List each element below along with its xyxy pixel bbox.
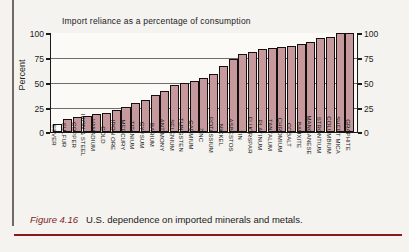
bar [287,46,296,132]
x-axis-tick-label-text: STRONTIUM [316,117,322,154]
x-axis-tick-label-text: ASBESTOS [228,118,234,151]
bar [219,66,228,132]
x-axis-tick-label: CADMIUM [189,134,199,204]
x-axis-tick-label-text: TITANIUM [129,121,135,150]
y-tick-label-25: 25 [22,104,44,114]
x-axis-tick-label-text: SHEET MICA [335,116,341,154]
x-axis-tick-label: GRAPHITE [346,134,356,204]
x-axis-tick-label-text: TUNGSTEN [178,118,184,152]
x-axis-tick-label-text: PLATINUM [257,120,263,151]
figure-caption-text: U.S. dependence on imported minerals and… [86,214,303,225]
page-bottom-rule [14,234,402,236]
x-axis-tick-label: ASBESTOS [229,134,239,204]
y-tick-label-50: 50 [22,79,44,89]
x-axis-tick-label-text: CHROMIUM [277,118,283,152]
x-axis-tick-label-text: TIN [237,130,243,140]
y-right-tick-label-0: 0 [364,128,369,138]
chart-title: Import reliance as a percentage of consu… [62,16,251,26]
x-axis-tick-label-text: MERCURY [120,120,126,151]
x-axis-tick-label-text: COPPER [71,122,77,148]
y-right-tick-mark-75 [358,58,362,60]
y-right-tick-label-75: 75 [364,54,373,64]
y-right-tick-label-100: 100 [364,29,378,39]
figure-caption: Figure 4.16U.S. dependence on imported m… [30,214,303,225]
y-right-tick-label-25: 25 [364,104,373,114]
x-axis-tick-label-text: GYPSUM [139,122,145,149]
y-tick-label-100: 100 [22,29,44,39]
x-axis-tick-label-text: SILVER [51,124,57,146]
x-axis-tick-label: VANADIUM [91,134,101,204]
bar [345,33,354,132]
x-axis-tick-label-text: SULFUR [61,123,67,148]
x-axis-tick-label-text: VANADIUM [90,119,96,151]
x-axis-tick-label-text: FLUORSPAR [247,116,253,153]
y-right-tick-mark-0 [358,132,362,134]
y-tick-label-75: 75 [22,54,44,64]
figure-page: Import reliance as a percentage of consu… [0,0,409,252]
x-axis-tick-label-text: BARIUM [149,123,155,147]
y-right-tick-label-50: 50 [364,79,373,89]
y-right-tick-mark-50 [358,83,362,85]
bar [238,54,247,132]
x-axis-tick-label-text: SELENIUM [169,119,175,150]
figure-number: Figure 4.16 [30,214,78,225]
x-axis-tick-label-text: IRON & STEEL [80,114,86,157]
y-tick-label-0: 0 [22,128,44,138]
x-axis-tick-label-text: ANTIMONY [159,119,165,151]
x-axis-tick-label-text: TANTALUM [267,119,273,151]
x-axis-tick-label-text: COBALT [286,123,292,147]
x-axis-tick-label-text: COLUMBIUM [326,116,332,154]
x-axis-tick-label-text: GOLD [100,126,106,143]
bar-chart: Import reliance as a percentage of consu… [14,8,404,208]
x-axis-tick-label-text: POTASSIUM [208,117,214,153]
bar [297,44,306,132]
x-axis-tick-label-text: ZINC [198,128,204,142]
y-right-tick-mark-25 [358,108,362,110]
x-axis-tick-label-text: CADMIUM [188,120,194,149]
x-axis-tick-label-text: BAUXITE [296,122,302,148]
x-axis-category-labels: SILVERSULFURCOPPERIRON & STEELVANADIUMGO… [50,134,358,204]
x-axis-tick-label-text: GRAPHITE [345,119,351,150]
y-right-tick-mark-100 [358,33,362,35]
x-axis-tick-label-text: NICKEL [218,124,224,146]
x-axis-tick-label-text: IRON ORE [110,120,116,150]
x-axis-tick-label-text: MANGANESE [306,115,312,154]
